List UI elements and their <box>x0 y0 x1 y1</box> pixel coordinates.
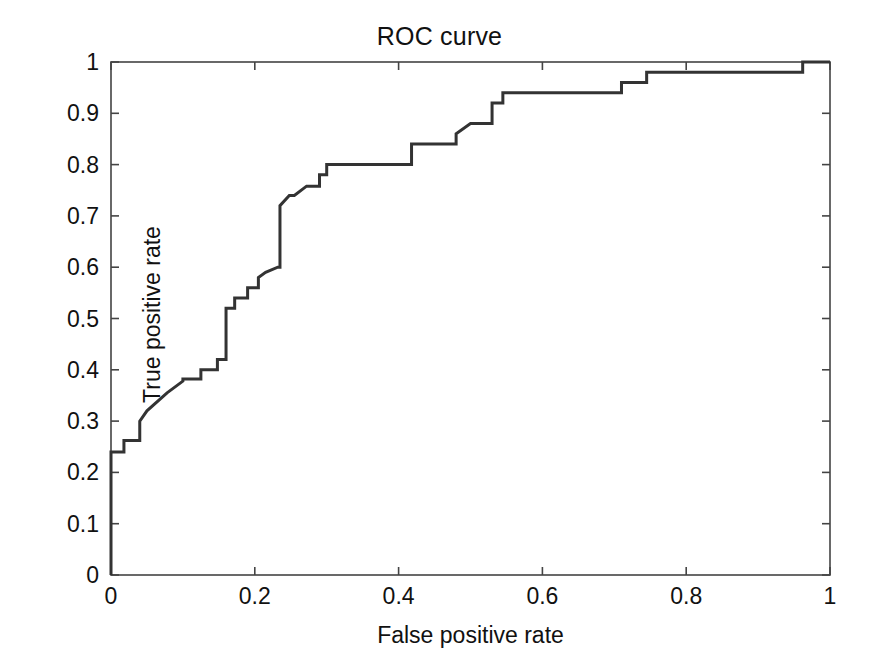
y-tick-label: 0.5 <box>67 306 99 332</box>
x-tick-label: 1 <box>824 583 837 609</box>
x-axis-ticks <box>111 62 830 575</box>
roc-curve-figure: ROC curve 00.20.40.60.81 00.10.20.30.40.… <box>0 0 879 664</box>
y-tick-label: 0.1 <box>67 511 99 537</box>
x-axis-label: False positive rate <box>111 622 830 649</box>
y-tick-label: 0.6 <box>67 254 99 280</box>
y-axis-label: True positive rate <box>139 58 166 571</box>
y-tick-label: 0.2 <box>67 459 99 485</box>
axes-box <box>111 62 830 575</box>
y-tick-label: 0 <box>86 562 99 588</box>
plot-canvas: 00.20.40.60.81 00.10.20.30.40.50.60.70.8… <box>0 0 879 664</box>
y-tick-label: 0.4 <box>67 357 99 383</box>
x-axis-tick-labels: 00.20.40.60.81 <box>105 583 837 609</box>
x-tick-label: 0 <box>105 583 118 609</box>
y-axis-tick-labels: 00.10.20.30.40.50.60.70.80.91 <box>67 49 99 588</box>
x-tick-label: 0.2 <box>239 583 271 609</box>
axes-frame <box>111 62 830 575</box>
roc-curve-line <box>111 62 830 575</box>
x-tick-label: 0.4 <box>383 583 415 609</box>
x-tick-label: 0.6 <box>526 583 558 609</box>
y-axis-ticks <box>111 62 830 575</box>
y-tick-label: 0.7 <box>67 203 99 229</box>
roc-polyline <box>111 62 830 575</box>
y-tick-label: 0.9 <box>67 100 99 126</box>
y-tick-label: 1 <box>86 49 99 75</box>
y-tick-label: 0.3 <box>67 408 99 434</box>
y-tick-label: 0.8 <box>67 152 99 178</box>
x-tick-label: 0.8 <box>670 583 702 609</box>
